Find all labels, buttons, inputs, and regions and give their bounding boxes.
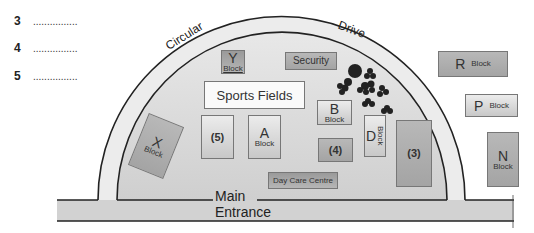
p-block-letter: P	[474, 99, 483, 113]
a-block-label: Block	[255, 140, 275, 148]
r-block-label: Block	[471, 60, 491, 68]
n-block-label: Block	[493, 163, 513, 171]
r-block[interactable]: R Block	[438, 51, 508, 77]
y-block[interactable]: Y Block	[221, 50, 245, 74]
b-block[interactable]: B Block	[317, 100, 352, 125]
building-4[interactable]: (4)	[318, 138, 353, 162]
n-block[interactable]: N Block	[487, 132, 519, 187]
b-block-label: Block	[325, 116, 345, 124]
main-entrance-label: Main Entrance	[215, 188, 271, 220]
building-3[interactable]: (3)	[396, 120, 432, 187]
b-block-letter: B	[330, 102, 339, 116]
d-block-label: Block	[376, 126, 384, 146]
y-block-label: Block	[223, 65, 243, 73]
sports-fields-label: Sports Fields	[217, 89, 293, 102]
p-block-label: Block	[489, 102, 509, 110]
day-care-label: Day Care Centre	[273, 177, 333, 185]
building-5[interactable]: (5)	[201, 115, 234, 159]
security-building[interactable]: Security	[285, 52, 337, 70]
entrance-line2: Entrance	[215, 204, 271, 220]
a-block-letter: A	[260, 126, 269, 140]
building-4-label: (4)	[329, 145, 342, 156]
d-block[interactable]: D Block	[364, 115, 386, 157]
security-label: Security	[293, 56, 329, 66]
building-3-label: (3)	[407, 148, 420, 159]
day-care-centre[interactable]: Day Care Centre	[268, 172, 338, 189]
p-block[interactable]: P Block	[465, 94, 518, 117]
d-block-letter: D	[366, 129, 376, 143]
building-5-label: (5)	[211, 132, 224, 143]
a-block[interactable]: A Block	[248, 115, 281, 159]
sports-fields[interactable]: Sports Fields	[204, 81, 305, 109]
entrance-line1: Main	[215, 188, 271, 204]
main-road	[57, 200, 514, 221]
r-block-letter: R	[455, 57, 465, 71]
y-block-letter: Y	[228, 51, 237, 65]
n-block-letter: N	[498, 149, 508, 163]
